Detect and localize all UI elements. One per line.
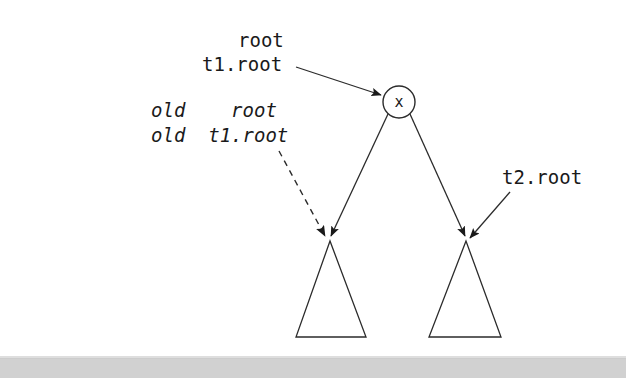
edge-root-to-left-child	[331, 114, 388, 236]
figure-canvas: x root t1.root old root old t1.root t2.r…	[0, 0, 626, 378]
right-subtree-triangle	[429, 241, 501, 337]
root-node-label: x	[394, 93, 403, 111]
pointer-t1root-to-root-node	[296, 67, 381, 95]
label-root: root	[238, 31, 284, 50]
pointer-t2root-to-right-subtree	[470, 192, 510, 238]
label-t2-root: t2.root	[502, 168, 582, 187]
edge-root-to-right-child	[410, 114, 465, 236]
label-old-t1-root: old t1.root	[151, 126, 288, 145]
tree-diagram-svg: x	[0, 0, 626, 378]
page-scan-band	[0, 358, 626, 378]
left-subtree-triangle	[296, 241, 366, 337]
label-t1-root: t1.root	[202, 55, 282, 74]
pointer-old-t1root-to-left-subtree	[279, 151, 325, 236]
label-old-root: old root	[151, 101, 277, 120]
